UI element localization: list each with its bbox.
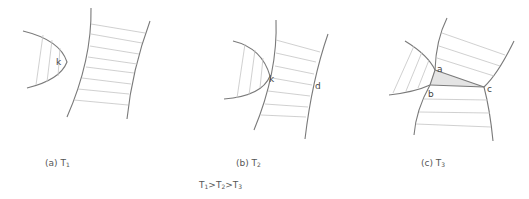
caption-c: (c) T3: [421, 158, 445, 168]
rel-s3: 3: [238, 183, 242, 190]
grain-large-right-edge: [127, 21, 150, 119]
caption-c-text: (c) T: [421, 158, 441, 168]
point-label-k: k: [269, 74, 275, 84]
point-label-a: a: [437, 64, 443, 74]
caption-a-subscript: 1: [66, 161, 70, 168]
grain-top-left-edge: [435, 18, 447, 70]
caption-b-text: (b) T: [236, 158, 257, 168]
rel-gt1: >: [208, 180, 216, 190]
caption-a-text: (a) T: [45, 158, 66, 168]
temperature-relation: T1>T2>T3: [199, 180, 242, 190]
point-label-b: b: [428, 89, 434, 99]
point-label-d: d: [315, 81, 321, 91]
point-label-c: c: [487, 84, 492, 94]
panel-a: k: [23, 8, 150, 119]
panel-c: a b c: [389, 18, 514, 141]
panel-b: k d: [224, 20, 328, 139]
rel-gt2: >: [225, 180, 233, 190]
caption-b: (b) T2: [236, 158, 261, 168]
grain-small-outline: [224, 41, 270, 99]
grain-top-right-edge: [484, 41, 514, 87]
diagram-canvas: k k d: [0, 0, 529, 199]
point-label-k: k: [56, 57, 62, 67]
caption-c-subscript: 3: [441, 161, 445, 168]
grain-left-lower-edge: [389, 85, 430, 95]
caption-b-subscript: 2: [257, 161, 261, 168]
caption-a: (a) T1: [45, 158, 70, 168]
grain-bottom-right-edge: [484, 87, 493, 141]
